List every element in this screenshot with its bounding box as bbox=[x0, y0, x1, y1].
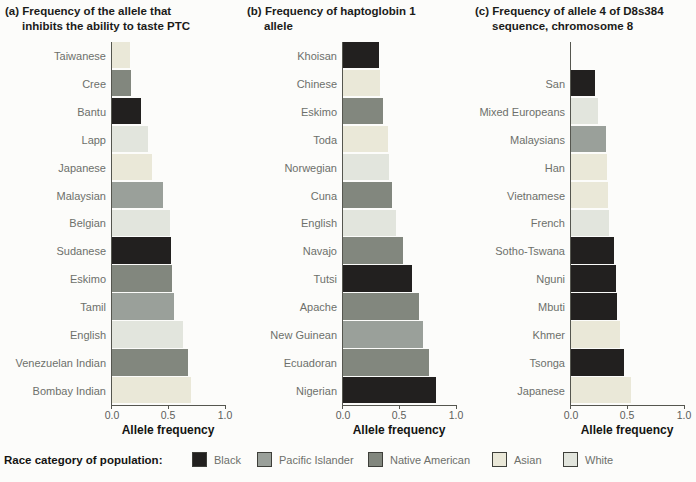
legend-label: White bbox=[585, 454, 613, 466]
bar bbox=[571, 70, 595, 96]
bar bbox=[571, 349, 624, 375]
bar-row: Taiwanese bbox=[0, 42, 237, 70]
bar bbox=[343, 182, 392, 208]
panel-b: (b) Frequency of haptoglobin 1 allele Kh… bbox=[231, 0, 468, 446]
race-category-legend: Race category of population: Black Pacif… bbox=[0, 450, 696, 478]
bar bbox=[571, 265, 616, 291]
bar-label: Khoisan bbox=[231, 42, 343, 70]
bar-row: Sotho-Tswana bbox=[459, 237, 696, 265]
x-tick-label: 0.5 bbox=[620, 409, 635, 421]
bar-label: Japanese bbox=[459, 377, 571, 405]
x-axis-title: Allele frequency bbox=[353, 423, 446, 437]
bar bbox=[571, 182, 608, 208]
bar bbox=[112, 42, 130, 68]
bar bbox=[112, 377, 191, 403]
panel-c-plot: SanMixed EuropeansMalaysiansHanVietnames… bbox=[459, 0, 696, 446]
bar bbox=[343, 293, 419, 319]
x-tick-label: 0.0 bbox=[564, 409, 579, 421]
bars-container: TaiwaneseCreeBantuLappJapaneseMalaysianB… bbox=[0, 42, 237, 405]
bar-row: Chinese bbox=[231, 70, 468, 98]
bar-row: Malaysians bbox=[459, 126, 696, 154]
panel-a: (a) Frequency of the allele that inhibit… bbox=[0, 0, 237, 446]
bar-row: Cree bbox=[0, 70, 237, 98]
bar bbox=[112, 154, 152, 180]
bar-label: Venezuelan Indian bbox=[0, 349, 112, 377]
bar-label: Bantu bbox=[0, 98, 112, 126]
bar-row: Belgian bbox=[0, 210, 237, 238]
bar bbox=[112, 321, 183, 347]
bar-label: Toda bbox=[231, 126, 343, 154]
bar-row: Vietnamese bbox=[459, 182, 696, 210]
bar-row: Tsonga bbox=[459, 349, 696, 377]
legend-title: Race category of population: bbox=[4, 454, 162, 466]
bar-label: Sotho-Tswana bbox=[459, 237, 571, 265]
bar-label: Han bbox=[459, 154, 571, 182]
bar bbox=[571, 321, 620, 347]
legend-item-black: Black bbox=[192, 452, 241, 467]
bar-row: San bbox=[459, 70, 696, 98]
legend-label: Native American bbox=[390, 454, 470, 466]
bar-label: French bbox=[459, 210, 571, 238]
bar-row: Norwegian bbox=[231, 154, 468, 182]
bar bbox=[112, 182, 163, 208]
bar-row: Khoisan bbox=[231, 42, 468, 70]
bar-label: Malaysian bbox=[0, 182, 112, 210]
bar-row: Eskimo bbox=[0, 265, 237, 293]
bar bbox=[343, 210, 396, 236]
bar-row: New Guinean bbox=[231, 321, 468, 349]
bar-row: English bbox=[231, 210, 468, 238]
pacific-islander-swatch-icon bbox=[257, 452, 272, 467]
bar-label: Nguni bbox=[459, 265, 571, 293]
legend-label: Pacific Islander bbox=[279, 454, 354, 466]
bar-row: Han bbox=[459, 154, 696, 182]
bar-row: Venezuelan Indian bbox=[0, 349, 237, 377]
bar-row: Malaysian bbox=[0, 182, 237, 210]
bar-label: Ecuadoran bbox=[231, 349, 343, 377]
bar bbox=[112, 210, 170, 236]
bar-label: Apache bbox=[231, 293, 343, 321]
legend-item-asian: Asian bbox=[492, 452, 542, 467]
bar bbox=[343, 154, 389, 180]
bar-label: Eskimo bbox=[0, 265, 112, 293]
x-axis-title: Allele frequency bbox=[122, 423, 215, 437]
bar-label: Tamil bbox=[0, 293, 112, 321]
bar-row: Japanese bbox=[0, 154, 237, 182]
bar-label: Lapp bbox=[0, 126, 112, 154]
bar-row: English bbox=[0, 321, 237, 349]
x-tick-label: 0.5 bbox=[392, 409, 407, 421]
white-swatch-icon bbox=[563, 452, 578, 467]
panel-b-plot: KhoisanChineseEskimoTodaNorwegianCunaEng… bbox=[231, 0, 468, 446]
bar-label: Eskimo bbox=[231, 98, 343, 126]
bar bbox=[343, 377, 436, 403]
bar bbox=[343, 42, 379, 68]
bar-label: English bbox=[231, 210, 343, 238]
bar-label: English bbox=[0, 321, 112, 349]
bar bbox=[571, 237, 614, 263]
bar bbox=[112, 349, 188, 375]
bar-label: Khmer bbox=[459, 321, 571, 349]
bar-label: Norwegian bbox=[231, 154, 343, 182]
bar bbox=[571, 154, 607, 180]
bar-label: Belgian bbox=[0, 210, 112, 238]
bar-label: Nigerian bbox=[231, 377, 343, 405]
x-tick-label: 1.0 bbox=[677, 409, 692, 421]
bar-row: Apache bbox=[231, 293, 468, 321]
bar-row: Khmer bbox=[459, 321, 696, 349]
bar-label: Mbuti bbox=[459, 293, 571, 321]
legend-item-pacific-islander: Pacific Islander bbox=[257, 452, 354, 467]
bar bbox=[112, 70, 131, 96]
panel-a-plot: TaiwaneseCreeBantuLappJapaneseMalaysianB… bbox=[0, 0, 237, 446]
bar-row: Eskimo bbox=[231, 98, 468, 126]
bar bbox=[343, 126, 388, 152]
bar-row: Bantu bbox=[0, 98, 237, 126]
bar bbox=[343, 237, 403, 263]
x-axis-title: Allele frequency bbox=[581, 423, 674, 437]
bar bbox=[343, 70, 380, 96]
bar-row: Cuna bbox=[231, 182, 468, 210]
bars-container: SanMixed EuropeansMalaysiansHanVietnames… bbox=[459, 70, 696, 405]
bar-label: Navajo bbox=[231, 237, 343, 265]
bar-label: Japanese bbox=[0, 154, 112, 182]
bar-row: Nigerian bbox=[231, 377, 468, 405]
legend-label: Asian bbox=[514, 454, 542, 466]
asian-swatch-icon bbox=[492, 452, 507, 467]
